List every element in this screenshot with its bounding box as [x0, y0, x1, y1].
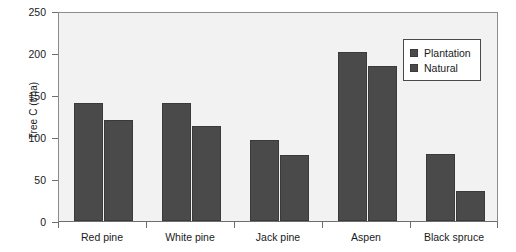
- bar: [104, 120, 133, 221]
- bar: [280, 155, 309, 221]
- x-tick-label: White pine: [165, 231, 215, 243]
- bar-chart: Tree C (t/ha) 050100150200250 Plantation…: [0, 0, 516, 252]
- y-tick-label: 250: [12, 6, 46, 18]
- legend-label: Natural: [424, 62, 458, 74]
- x-tick-mark: [497, 222, 498, 228]
- square-swatch-icon: [410, 64, 418, 72]
- bar: [426, 154, 455, 221]
- bar: [192, 126, 221, 221]
- bar: [338, 52, 367, 221]
- legend-item-plantation: Plantation: [410, 45, 471, 60]
- x-tick-mark: [410, 222, 411, 228]
- x-tick-mark: [58, 222, 59, 228]
- x-axis: Red pineWhite pineJack pineAspenBlack sp…: [58, 222, 498, 252]
- x-tick-label: Red pine: [81, 231, 123, 243]
- plot-area: Plantation Natural: [58, 12, 498, 222]
- x-tick-mark: [234, 222, 235, 228]
- y-tick-label: 150: [12, 90, 46, 102]
- legend: Plantation Natural: [403, 39, 481, 81]
- y-tick-label: 100: [12, 132, 46, 144]
- y-axis: Tree C (t/ha) 050100150200250: [0, 0, 58, 252]
- bar: [74, 103, 103, 221]
- bar: [250, 140, 279, 221]
- bar: [162, 103, 191, 221]
- x-tick-label: Black spruce: [424, 231, 484, 243]
- legend-label: Plantation: [424, 47, 471, 59]
- bar: [456, 191, 485, 221]
- x-tick-mark: [322, 222, 323, 228]
- y-tick-label: 200: [12, 48, 46, 60]
- legend-item-natural: Natural: [410, 60, 471, 75]
- square-swatch-icon: [410, 49, 418, 57]
- y-tick-label: 50: [12, 174, 46, 186]
- x-tick-label: Jack pine: [256, 231, 300, 243]
- y-tick-label: 0: [12, 216, 46, 228]
- bar: [368, 66, 397, 221]
- x-tick-label: Aspen: [351, 231, 381, 243]
- x-tick-mark: [146, 222, 147, 228]
